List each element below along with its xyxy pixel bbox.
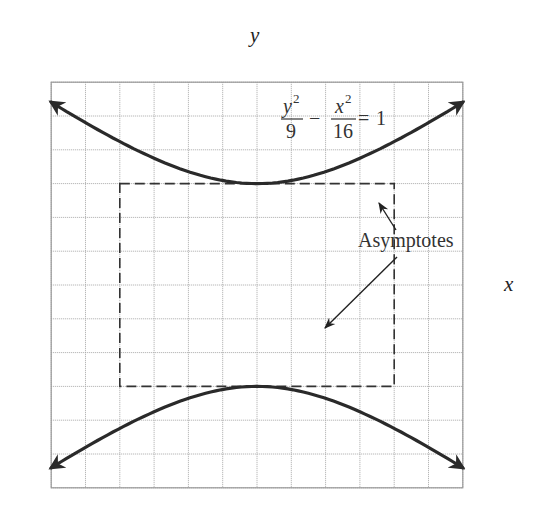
grid — [51, 82, 463, 488]
hyperbola-chart: x y y 2 9 − x 2 16 = 1 Asymptotes — [0, 0, 538, 529]
asymptote-pointer-lower — [325, 257, 397, 328]
equation-num2: x — [334, 95, 344, 117]
equation-equals: = — [358, 107, 369, 129]
equation-den2: 16 — [333, 120, 353, 142]
asymptotes-annotation: Asymptotes — [325, 203, 454, 328]
equation-exp2: 2 — [345, 91, 352, 106]
equation-exp1: 2 — [293, 91, 300, 106]
asymptotes-label: Asymptotes — [358, 229, 454, 252]
y-axis-label: y — [248, 23, 260, 47]
equation-rhs: 1 — [376, 107, 386, 129]
equation-num1: y — [281, 95, 292, 118]
equation-den1: 9 — [286, 120, 296, 142]
equation-minus: − — [309, 107, 320, 129]
x-axis-label: x — [503, 272, 514, 296]
